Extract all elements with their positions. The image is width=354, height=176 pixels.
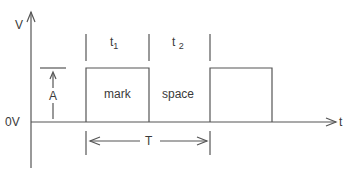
t2-base: t [172, 35, 175, 49]
t1-subscript: 1 [113, 41, 118, 51]
amplitude-label: A [49, 90, 57, 102]
y-axis-label: V [15, 19, 23, 31]
t2-subscript: 2 [179, 41, 184, 51]
mark-label: mark [104, 88, 131, 100]
period-label: T [145, 135, 152, 147]
segment-t2-label: t 2 [172, 36, 184, 48]
x-axis-label: t [339, 116, 342, 128]
segment-t1-label: t1 [110, 36, 118, 48]
origin-label: 0V [5, 116, 20, 128]
space-label: space [162, 88, 194, 100]
pulse-2 [210, 68, 272, 122]
